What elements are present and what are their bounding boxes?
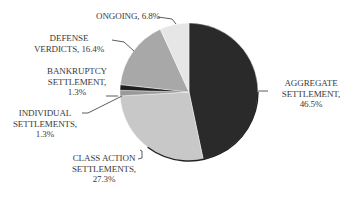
label-individual: INDIVIDUAL SETTLEMENTS, 1.3% [10,108,80,140]
leader-defense [112,40,134,51]
label-defense: DEFENSE VERDICTS, 16.4% [26,33,112,54]
label-class-action: CLASS ACTION SETTLEMENTS, 27.3% [68,153,140,185]
label-ongoing: ONGOING, 6.8% [74,11,160,22]
leader-individual [82,96,122,113]
pie-slice-class-action-settlements [120,92,203,161]
pie-slices [120,23,258,161]
label-aggregate: AGGREGATE SETTLEMENT, 46.5% [268,78,354,110]
pie-slice-aggregate-settlement [189,23,258,160]
leader-ongoing [158,17,176,24]
label-bankruptcy: BANKRUPTCY SETTLEMENT, 1.3% [40,66,114,98]
